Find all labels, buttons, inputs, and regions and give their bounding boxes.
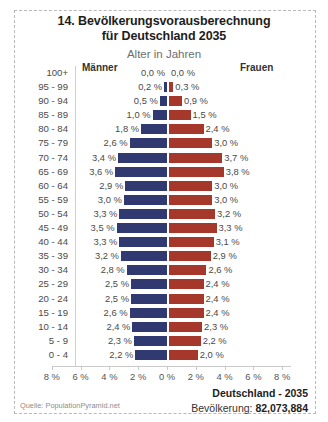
bar-female bbox=[169, 265, 206, 275]
bar-female bbox=[169, 181, 212, 191]
pyramid-row: 80 - 841,8 %2,4 % bbox=[0, 122, 328, 136]
value-label-female: 2,6 % bbox=[208, 263, 232, 277]
bar-female bbox=[169, 82, 173, 92]
bar-male bbox=[153, 110, 167, 120]
bar-pair: 2,2 %2,0 % bbox=[0, 348, 328, 362]
value-label-male: 0,5 % bbox=[114, 94, 158, 108]
pyramid-row: 85 - 891,0 %1,5 % bbox=[0, 108, 328, 122]
bar-female bbox=[169, 279, 204, 289]
bar-male bbox=[141, 124, 167, 134]
value-label-male: 2,9 % bbox=[79, 179, 123, 193]
value-label-female: 3,0 % bbox=[214, 193, 238, 207]
bar-female bbox=[169, 167, 224, 177]
bar-female bbox=[169, 138, 212, 148]
x-axis-tick-label: 6 % bbox=[238, 371, 268, 382]
bar-pair: 2,5 %2,4 % bbox=[0, 292, 328, 306]
chart-header: 14. Bevölkerungsvorausberechnung für Deu… bbox=[0, 14, 328, 61]
bar-male bbox=[135, 350, 167, 360]
bar-pair: 2,6 %2,4 % bbox=[0, 306, 328, 320]
bar-pair: 2,3 %2,2 % bbox=[0, 334, 328, 348]
pyramid-rows: 100+0,0 %0,0 %95 - 990,2 %0,3 %90 - 940,… bbox=[0, 66, 328, 362]
bar-pair: 2,4 %2,3 % bbox=[0, 320, 328, 334]
pyramid-row: 40 - 443,3 %3,1 % bbox=[0, 235, 328, 249]
value-label-female: 2,0 % bbox=[200, 348, 224, 362]
bar-pair: 1,8 %2,4 % bbox=[0, 122, 328, 136]
value-label-female: 2,9 % bbox=[213, 249, 237, 263]
value-label-female: 3,3 % bbox=[219, 221, 243, 235]
bar-male bbox=[127, 265, 167, 275]
x-axis-tick-mark bbox=[52, 366, 53, 370]
pyramid-row: 100+0,0 %0,0 % bbox=[0, 66, 328, 80]
pyramid-row: 45 - 493,5 %3,3 % bbox=[0, 221, 328, 235]
bar-male bbox=[164, 82, 167, 92]
value-label-female: 3,0 % bbox=[214, 179, 238, 193]
value-label-male: 3,3 % bbox=[73, 235, 117, 249]
bar-pair: 3,3 %3,2 % bbox=[0, 207, 328, 221]
bar-female bbox=[169, 350, 198, 360]
bar-male bbox=[160, 96, 167, 106]
bar-pair: 3,6 %3,8 % bbox=[0, 165, 328, 179]
page-title-line-2: für Deutschland 2035 bbox=[0, 29, 328, 44]
bar-male bbox=[130, 138, 167, 148]
bar-pair: 2,6 %3,0 % bbox=[0, 136, 328, 150]
value-label-female: 2,4 % bbox=[206, 306, 230, 320]
bar-female bbox=[169, 336, 201, 346]
value-label-female: 2,3 % bbox=[204, 320, 228, 334]
x-axis-tick-mark bbox=[253, 366, 254, 370]
pyramid-row: 30 - 342,8 %2,6 % bbox=[0, 263, 328, 277]
bar-male bbox=[117, 223, 167, 233]
pyramid-row: 10 - 142,4 %2,3 % bbox=[0, 320, 328, 334]
pyramid-row: 15 - 192,6 %2,4 % bbox=[0, 306, 328, 320]
bar-male bbox=[118, 153, 167, 163]
chart-subtitle: Alter in Jahren bbox=[0, 47, 328, 61]
value-label-male: 3,0 % bbox=[78, 193, 122, 207]
x-axis-tick-label: 6 % bbox=[66, 371, 96, 382]
value-label-male: 1,0 % bbox=[107, 108, 151, 122]
bar-female bbox=[169, 237, 214, 247]
page-title-line-1: 14. Bevölkerungsvorausberechnung bbox=[0, 14, 328, 29]
value-label-male: 2,8 % bbox=[81, 263, 125, 277]
pyramid-row: 95 - 990,2 %0,3 % bbox=[0, 80, 328, 94]
bar-female bbox=[169, 96, 182, 106]
bar-pair: 2,5 %2,4 % bbox=[0, 277, 328, 291]
pyramid-plot-area: 100+0,0 %0,0 %95 - 990,2 %0,3 %90 - 940,… bbox=[0, 66, 328, 366]
bar-female bbox=[169, 308, 204, 318]
x-axis-tick-mark bbox=[282, 366, 283, 370]
value-label-male: 2,2 % bbox=[89, 348, 133, 362]
pyramid-row: 25 - 292,5 %2,4 % bbox=[0, 277, 328, 291]
bar-pair: 3,4 %3,7 % bbox=[0, 151, 328, 165]
bar-pair: 3,5 %3,3 % bbox=[0, 221, 328, 235]
pyramid-row: 0 - 42,2 %2,0 % bbox=[0, 348, 328, 362]
pyramid-row: 65 - 693,6 %3,8 % bbox=[0, 165, 328, 179]
bar-female bbox=[169, 322, 202, 332]
population-label: Bevölkerung: bbox=[191, 402, 252, 414]
value-label-male: 2,3 % bbox=[88, 334, 132, 348]
x-axis-tick-mark bbox=[138, 366, 139, 370]
population-pyramid-chart: 14. Bevölkerungsvorausberechnung für Deu… bbox=[0, 0, 328, 422]
bar-male bbox=[131, 279, 167, 289]
x-axis-line bbox=[53, 366, 291, 367]
bar-male bbox=[119, 237, 167, 247]
bar-male bbox=[125, 181, 167, 191]
value-label-female: 2,4 % bbox=[206, 292, 230, 306]
bar-pair: 0,2 %0,3 % bbox=[0, 80, 328, 94]
value-label-female: 3,7 % bbox=[224, 151, 248, 165]
pyramid-row: 35 - 393,2 %2,9 % bbox=[0, 249, 328, 263]
pyramid-row: 70 - 743,4 %3,7 % bbox=[0, 151, 328, 165]
pyramid-row: 5 - 92,3 %2,2 % bbox=[0, 334, 328, 348]
value-label-female: 3,8 % bbox=[226, 165, 250, 179]
x-axis-tick-label: 0 % bbox=[152, 371, 182, 382]
chart-footer: Deutschland - 2035 Bevölkerung: 82,073,8… bbox=[191, 386, 308, 416]
x-axis-tick-label: 2 % bbox=[181, 371, 211, 382]
value-label-male: 3,3 % bbox=[73, 207, 117, 221]
x-axis-tick-label: 8 % bbox=[37, 371, 67, 382]
pyramid-row: 75 - 792,6 %3,0 % bbox=[0, 136, 328, 150]
bar-female bbox=[169, 195, 212, 205]
pyramid-row: 90 - 940,5 %0,9 % bbox=[0, 94, 328, 108]
value-label-male: 2,5 % bbox=[85, 292, 129, 306]
value-label-female: 2,4 % bbox=[206, 122, 230, 136]
bar-pair: 3,2 %2,9 % bbox=[0, 249, 328, 263]
bar-male bbox=[121, 251, 167, 261]
bar-male bbox=[132, 322, 167, 332]
value-label-male: 3,2 % bbox=[75, 249, 119, 263]
